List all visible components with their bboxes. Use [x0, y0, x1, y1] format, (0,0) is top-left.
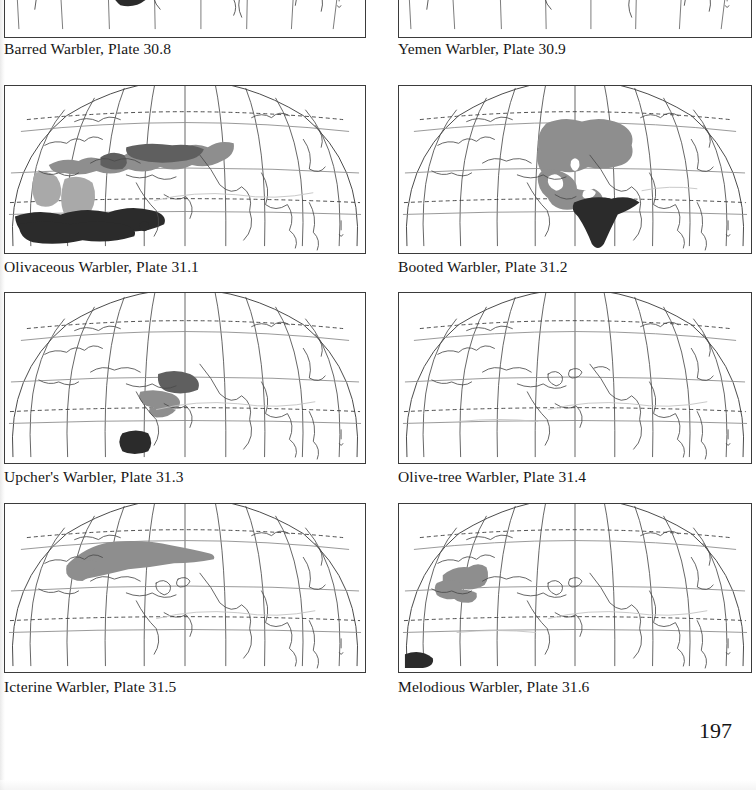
map-frame-upchers-warbler[interactable] [4, 292, 366, 464]
caption-icterine-warbler: Icterine Warbler, Plate 31.5 [4, 678, 176, 696]
map-cell-yemen-warbler [398, 0, 752, 38]
caption-melodious-warbler: Melodious Warbler, Plate 31.6 [398, 678, 589, 696]
map-cell-icterine-warbler [4, 503, 366, 673]
map-graphic-booted-warbler [399, 86, 751, 253]
map-cell-upchers-warbler [4, 292, 366, 464]
map-graphic-yemen-warbler [399, 0, 751, 37]
scan-edge-shadow-bottom [0, 780, 756, 790]
map-frame-yemen-warbler[interactable] [398, 0, 752, 38]
map-frame-booted-warbler[interactable] [398, 85, 752, 254]
caption-upchers-warbler: Upcher's Warbler, Plate 31.3 [4, 468, 183, 486]
map-graphic-barred-warbler [5, 0, 365, 37]
map-frame-olivaceous-warbler[interactable] [4, 85, 366, 254]
map-cell-melodious-warbler [398, 503, 752, 673]
map-frame-melodious-warbler[interactable] [398, 503, 752, 673]
caption-yemen-warbler: Yemen Warbler, Plate 30.9 [398, 40, 566, 58]
map-graphic-melodious-warbler [399, 504, 751, 672]
caption-olivaceous-warbler: Olivaceous Warbler, Plate 31.1 [4, 258, 199, 276]
caption-barred-warbler: Barred Warbler, Plate 30.8 [4, 40, 171, 58]
map-graphic-olive-tree-warbler [399, 293, 751, 463]
book-page: Barred Warbler, Plate 30.8 [0, 0, 756, 790]
map-cell-booted-warbler [398, 85, 752, 254]
page-number: 197 [699, 718, 732, 744]
map-graphic-olivaceous-warbler [5, 86, 365, 253]
map-cell-olive-tree-warbler [398, 292, 752, 464]
map-frame-olive-tree-warbler[interactable] [398, 292, 752, 464]
caption-olive-tree-warbler: Olive-tree Warbler, Plate 31.4 [398, 468, 586, 486]
caption-booted-warbler: Booted Warbler, Plate 31.2 [398, 258, 568, 276]
map-cell-olivaceous-warbler [4, 85, 366, 254]
map-graphic-icterine-warbler [5, 504, 365, 672]
range-dark-upchers-warbler [119, 430, 151, 454]
map-frame-icterine-warbler[interactable] [4, 503, 366, 673]
map-cell-barred-warbler [4, 0, 366, 38]
map-graphic-upchers-warbler [5, 293, 365, 463]
map-frame-barred-warbler[interactable] [4, 0, 366, 38]
